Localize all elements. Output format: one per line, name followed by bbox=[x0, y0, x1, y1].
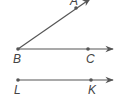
ray-ba bbox=[18, 0, 90, 49]
label-k: K bbox=[88, 83, 97, 97]
point-k bbox=[89, 78, 93, 82]
geometry-diagram: A B C L K bbox=[0, 0, 123, 97]
label-a: A bbox=[69, 0, 78, 8]
label-c: C bbox=[86, 52, 95, 66]
point-l bbox=[16, 78, 20, 82]
label-b: B bbox=[13, 52, 21, 66]
point-b bbox=[16, 47, 20, 51]
label-l: L bbox=[14, 83, 21, 97]
point-c bbox=[86, 47, 90, 51]
